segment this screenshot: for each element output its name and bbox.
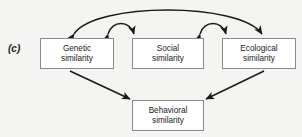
node-behavioral-line1: Behavioral xyxy=(149,106,188,116)
figure-panel-c: (c) Genetic similarity Social similarity… xyxy=(0,0,302,137)
node-behavioral-line2: similarity xyxy=(152,116,184,126)
node-social-line1: Social xyxy=(157,44,179,54)
edge-social-ecological xyxy=(200,24,226,35)
node-ecological-line2: similarity xyxy=(243,54,275,64)
edge-genetic-social xyxy=(108,24,134,35)
node-social-similarity: Social similarity xyxy=(132,38,204,69)
node-ecological-line1: Ecological xyxy=(240,44,277,54)
edge-genetic-ecological xyxy=(74,10,262,34)
node-genetic-line1: Genetic xyxy=(63,44,91,54)
node-ecological-similarity: Ecological similarity xyxy=(222,38,296,69)
edge-ecological-behavioral xyxy=(206,71,264,99)
node-genetic-line2: similarity xyxy=(61,54,93,64)
edge-genetic-behavioral xyxy=(70,71,130,99)
node-social-line2: similarity xyxy=(152,54,184,64)
node-genetic-similarity: Genetic similarity xyxy=(40,38,114,69)
node-behavioral-similarity: Behavioral similarity xyxy=(132,100,204,131)
